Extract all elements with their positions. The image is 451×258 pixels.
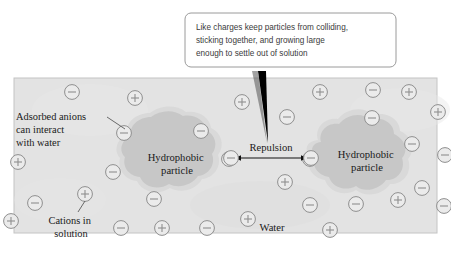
adsorbed-line-3: with water	[16, 137, 61, 148]
anion-ion	[28, 196, 43, 211]
anion-ion	[365, 111, 380, 126]
particle-right-line-1: Hydrophobic	[338, 149, 394, 160]
anion-ion	[415, 181, 430, 196]
cation-ion	[313, 85, 328, 100]
anion-ion	[349, 197, 364, 212]
cation-ion	[235, 95, 250, 110]
anion-ion	[65, 85, 80, 100]
cation-ion	[241, 212, 256, 227]
anion-ion	[405, 137, 420, 152]
cation-ion	[323, 223, 338, 238]
callout-line-1: Like charges keep particles from collidi…	[196, 23, 348, 32]
callout-line-3: enough to settle out of solution	[196, 49, 308, 58]
cations-line-1: Cations in	[48, 215, 91, 226]
anion-ion	[280, 110, 295, 125]
colloid-diagram-svg: Hydrophobic particle Hydrophobic particl…	[0, 0, 451, 258]
repulsion-label: Repulsion	[250, 142, 294, 153]
particle-left-line-2: particle	[161, 165, 193, 176]
anion-ion	[366, 83, 381, 98]
particle-left-line-1: Hydrophobic	[148, 152, 204, 163]
anion-ion	[114, 221, 129, 236]
cation-ion	[278, 175, 293, 190]
adsorbed-line-2: can interact	[16, 124, 64, 135]
cation-ion	[78, 187, 93, 202]
explanatory-callout: Like charges keep particles from collidi…	[185, 13, 396, 67]
cations-line-2: solution	[54, 228, 88, 239]
anion-ion	[147, 192, 162, 207]
cation-ion	[4, 214, 19, 229]
diagram-canvas: Hydrophobic particle Hydrophobic particl…	[0, 0, 451, 258]
anion-ion	[200, 221, 215, 236]
anion-ion	[437, 199, 451, 214]
callout-line-2: sticking together, and growing large	[196, 36, 325, 45]
cation-ion	[128, 91, 143, 106]
adsorbed-line-1: Adsorbed anions	[16, 111, 86, 122]
repulsion-anion-right	[304, 151, 319, 166]
cation-ion	[431, 105, 446, 120]
particle-right-line-2: particle	[351, 162, 383, 173]
cation-ion	[155, 221, 170, 236]
repulsion-anion-left	[224, 151, 239, 166]
cation-ion	[391, 193, 406, 208]
anion-ion	[303, 198, 318, 213]
cation-ion	[402, 85, 417, 100]
cation-ion	[11, 155, 26, 170]
water-label: Water	[259, 222, 284, 233]
anion-ion	[194, 124, 209, 139]
anion-ion	[106, 165, 121, 180]
anion-ion	[438, 148, 451, 163]
